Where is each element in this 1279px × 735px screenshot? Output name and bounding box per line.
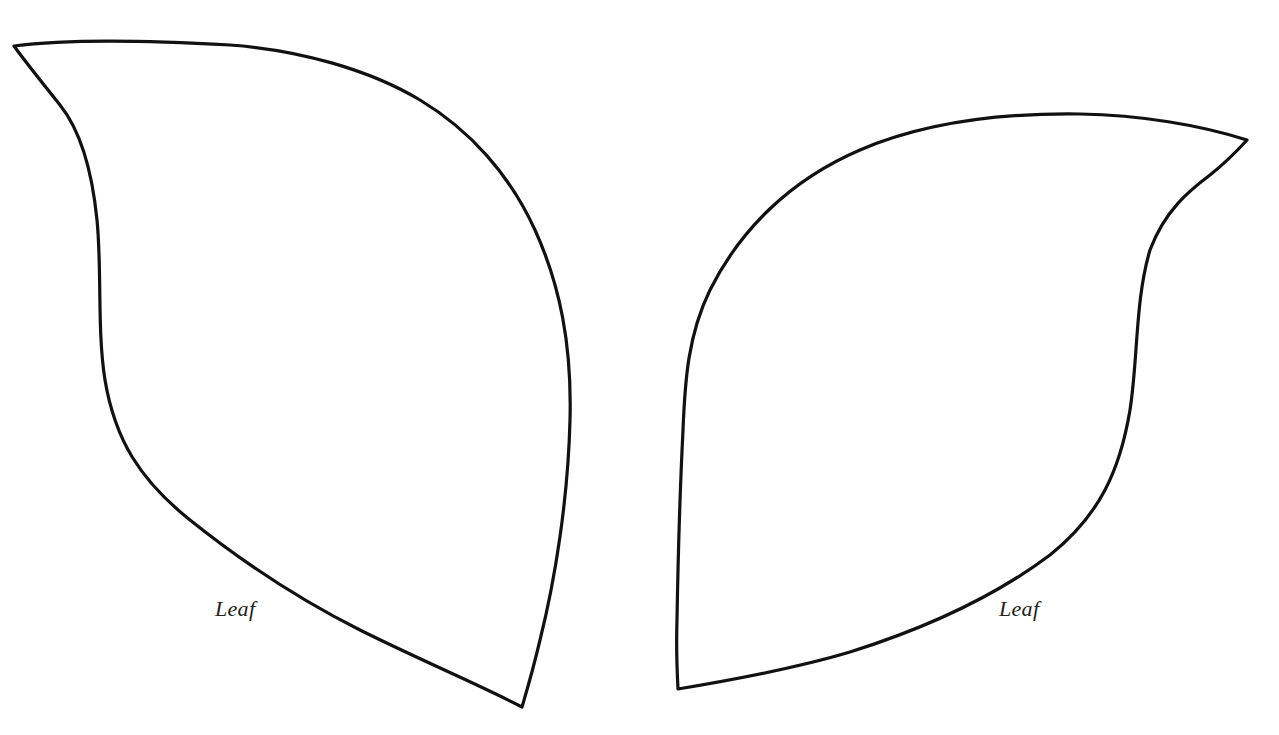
right-leaf-label: Leaf — [999, 596, 1039, 622]
leaf-template-page: Leaf Leaf — [0, 0, 1279, 735]
right-leaf-outline — [677, 114, 1247, 689]
leaf-outlines — [0, 0, 1279, 735]
left-leaf-outline — [14, 41, 570, 707]
left-leaf-label: Leaf — [215, 596, 255, 622]
